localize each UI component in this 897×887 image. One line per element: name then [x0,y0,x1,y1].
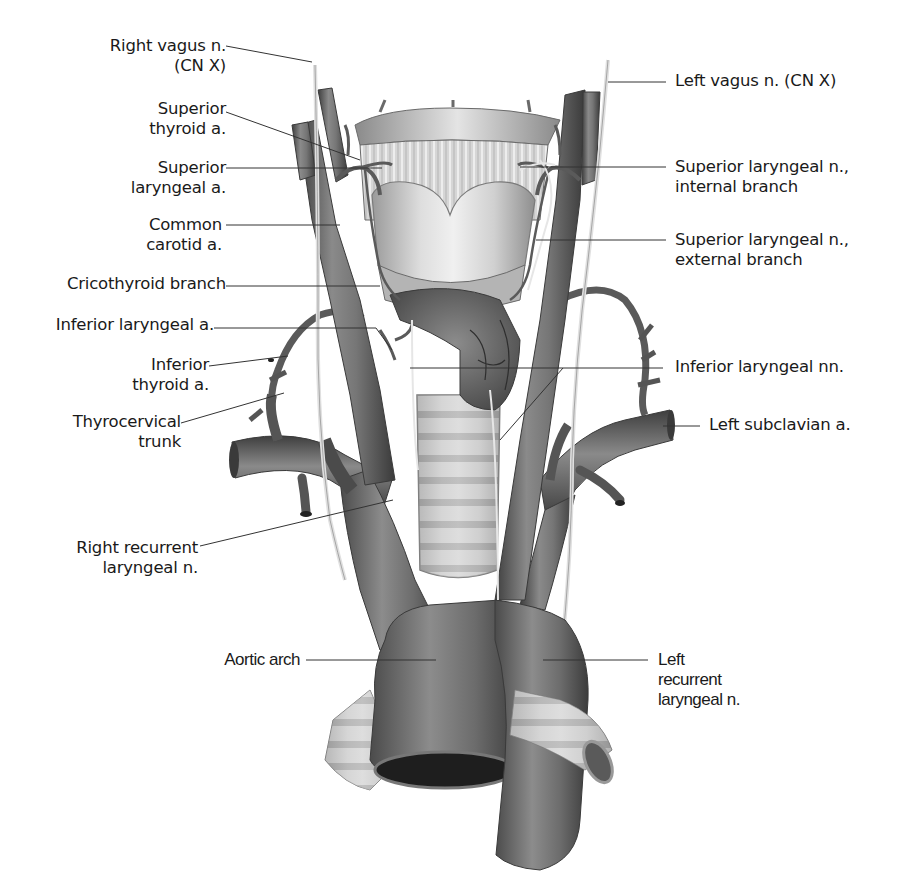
label-line: Aortic arch [180,650,300,670]
label-line: Inferior laryngeal a. [10,315,214,335]
label-line: Right vagus n. [60,36,226,56]
label-common-carotid-artery: Common carotid a. [60,215,222,255]
label-line: trunk [20,432,181,452]
aortic-arch [325,600,618,870]
label-line: Superior [60,99,226,119]
label-inferior-laryngeal-nerves: Inferior laryngeal nn. [675,357,844,377]
label-line: Left subclavian a. [709,415,851,435]
label-line: thyroid a. [60,119,226,139]
label-left-vagus-nerve: Left vagus n. (CN X) [675,71,836,91]
label-line: thyroid a. [40,375,209,395]
label-superior-thyroid-artery: Superior thyroid a. [60,99,226,139]
label-right-vagus-nerve: Right vagus n. (CN X) [60,36,226,76]
label-line: Inferior [40,355,209,375]
label-line: laryngeal a. [60,178,226,198]
label-inferior-thyroid-artery: Inferior thyroid a. [40,355,209,395]
label-line: external branch [675,250,849,270]
label-right-recurrent-laryngeal-nerve: Right recurrent laryngeal n. [20,538,198,578]
larynx [355,100,560,410]
label-line: Superior laryngeal n., [675,157,849,177]
label-line: internal branch [675,177,849,197]
label-line: Superior laryngeal n., [675,230,849,250]
label-line: Superior [60,158,226,178]
label-line: Inferior laryngeal nn. [675,357,844,377]
label-left-subclavian-artery: Left subclavian a. [709,415,851,435]
label-aortic-arch: Aortic arch [180,650,300,670]
label-left-recurrent-laryngeal-nerve: Left recurrent laryngeal n. [658,650,740,710]
label-thyrocervical-trunk: Thyrocervical trunk [20,412,181,452]
label-line: laryngeal n. [20,558,198,578]
label-superior-laryngeal-nerve-external: Superior laryngeal n., external branch [675,230,849,270]
label-line: (CN X) [60,56,226,76]
label-line: Cricothyroid branch [20,274,226,294]
label-line: laryngeal n. [658,690,740,710]
label-line: Common [60,215,222,235]
label-line: Left [658,650,740,670]
label-inferior-laryngeal-artery: Inferior laryngeal a. [10,315,214,335]
label-line: Left vagus n. (CN X) [675,71,836,91]
label-line: Right recurrent [20,538,198,558]
label-superior-laryngeal-nerve-internal: Superior laryngeal n., internal branch [675,157,849,197]
label-cricothyroid-branch: Cricothyroid branch [20,274,226,294]
label-superior-laryngeal-artery: Superior laryngeal a. [60,158,226,198]
label-line: recurrent [658,670,740,690]
label-line: carotid a. [60,235,222,255]
label-line: Thyrocervical [20,412,181,432]
trachea [417,395,500,578]
